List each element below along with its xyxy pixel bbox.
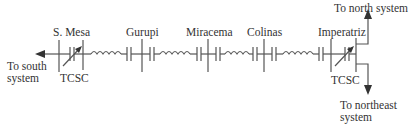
south-label-line1: To south	[7, 60, 47, 72]
substation-s-mesa: S. Mesa	[53, 26, 90, 72]
tcsc-label-imperatriz: TCSC	[331, 74, 360, 86]
substation-imperatriz: Imperatriz	[318, 26, 366, 72]
north-label: To north system	[334, 2, 408, 15]
south-label-line2: system	[7, 72, 39, 85]
inductor-icon	[91, 52, 121, 55]
inductor-icon	[283, 52, 313, 55]
south-system-connection: To south system	[7, 50, 59, 85]
substation-label-gurupi: Gurupi	[126, 26, 159, 39]
substation-label-imperatriz: Imperatriz	[318, 26, 366, 39]
northeast-system-connection: To northeast system	[340, 64, 398, 124]
single-line-diagram: To south system S. Mesa TCSC Gurupi	[0, 0, 418, 130]
substation-label-s-mesa: S. Mesa	[53, 26, 90, 38]
line-colinas-imperatriz	[272, 47, 345, 61]
substation-colinas: Colinas	[247, 26, 283, 72]
inductor-icon	[160, 52, 190, 55]
substation-label-miracema: Miracema	[186, 26, 233, 38]
line-gurupi-miracema	[150, 47, 216, 61]
arrow-left-icon	[35, 50, 45, 58]
arrow-down-icon	[364, 85, 372, 95]
northeast-label-line2: system	[340, 111, 372, 124]
substation-miracema: Miracema	[186, 26, 233, 72]
tcsc-label-s-mesa: TCSC	[60, 72, 89, 84]
northeast-label-line1: To northeast	[340, 99, 398, 111]
inductor-icon	[225, 52, 249, 55]
line-s-mesa-gurupi	[83, 47, 150, 61]
tcsc-s-mesa: TCSC	[59, 40, 89, 84]
substation-label-colinas: Colinas	[247, 26, 283, 38]
tcsc-imperatriz: TCSC	[331, 38, 360, 86]
